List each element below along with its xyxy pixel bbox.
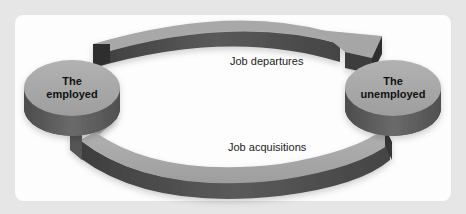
flow-acquisitions-label: Job acquisitions: [228, 141, 306, 153]
node-employed-label: The employed: [24, 75, 120, 101]
flow-diagram: [0, 0, 466, 214]
node-unemployed-line1: The: [345, 75, 441, 88]
flow-departures-label: Job departures: [230, 55, 303, 67]
diagram-frame: The employed The unemployed Job departur…: [0, 0, 466, 214]
node-employed-line2: employed: [24, 88, 120, 101]
node-unemployed-line2: unemployed: [345, 88, 441, 101]
node-unemployed-label: The unemployed: [345, 75, 441, 101]
node-employed-line1: The: [24, 75, 120, 88]
